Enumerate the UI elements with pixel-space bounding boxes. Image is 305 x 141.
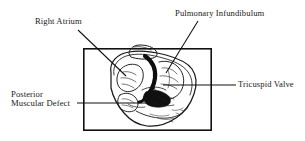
label-pulmonary-infundibulum: Pulmonary Infundibulum xyxy=(175,9,264,18)
label-posterior-muscular-defect: Posterior Muscular Defect xyxy=(11,90,70,109)
figure-container: Right Atrium Pulmonary Infundibulum Tric… xyxy=(0,0,305,141)
diagram-frame xyxy=(84,49,211,130)
label-right-atrium: Right Atrium xyxy=(35,17,82,26)
label-tricuspid-valve: Tricuspid Valve xyxy=(238,80,294,89)
label-posterior-line-2: Muscular Defect xyxy=(11,99,70,108)
